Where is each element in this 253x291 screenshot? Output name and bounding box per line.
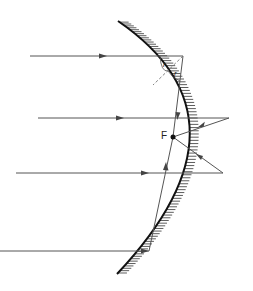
mirror-ray-diagram: i r F — [0, 0, 253, 291]
arrow-icon — [176, 112, 181, 120]
mirror-hatching — [118, 22, 199, 273]
focal-point-label: F — [161, 130, 167, 141]
incident-rays — [0, 54, 229, 254]
incidence-angle-label: i — [163, 60, 165, 69]
reflected-rays — [149, 56, 229, 251]
arrow-icon — [116, 116, 124, 121]
arrow-icon — [141, 171, 149, 176]
arrow-icon — [99, 54, 107, 59]
arrow-icon — [196, 154, 203, 160]
reflected-ray-2 — [173, 118, 229, 137]
reflection-angle-label: r — [174, 69, 177, 78]
focal-point — [171, 135, 176, 140]
reflected-ray-4 — [149, 137, 173, 251]
